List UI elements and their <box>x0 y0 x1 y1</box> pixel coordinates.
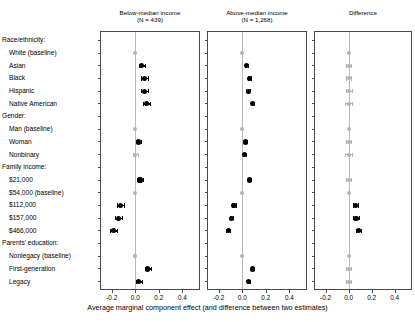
y-tick <box>98 103 101 104</box>
y-tick <box>98 141 101 142</box>
y-tick <box>312 154 315 155</box>
baseline-marker <box>347 127 351 131</box>
y-tick <box>312 116 315 117</box>
baseline-marker <box>347 191 351 195</box>
ci-cap <box>117 229 118 233</box>
x-tick <box>266 290 267 293</box>
panel-subtitle-text: (N = 439) <box>100 16 200 23</box>
panel-box-2 <box>314 31 412 290</box>
row-label: Native American <box>0 100 105 107</box>
x-tick <box>395 290 396 293</box>
row-label: Hispanic <box>0 87 105 94</box>
x-tick <box>372 290 373 293</box>
y-tick <box>205 230 208 231</box>
y-tick <box>312 192 315 193</box>
estimate-marker <box>250 266 255 271</box>
row-label: White (baseline) <box>0 49 105 56</box>
baseline-marker <box>347 51 351 55</box>
y-tick <box>312 129 315 130</box>
baseline-marker <box>347 178 351 182</box>
estimate-marker <box>243 139 248 144</box>
y-tick <box>312 78 315 79</box>
baseline-marker <box>347 140 351 144</box>
ci-cap <box>352 153 353 157</box>
y-tick <box>98 256 101 257</box>
ci-cap <box>351 64 352 68</box>
y-tick <box>312 40 315 41</box>
ci-cap <box>352 89 353 93</box>
y-tick <box>98 53 101 54</box>
ci-cap <box>145 64 146 68</box>
baseline-marker <box>347 89 351 93</box>
ci-cap <box>345 102 346 106</box>
y-tick <box>205 141 208 142</box>
y-tick <box>205 129 208 130</box>
y-tick <box>312 91 315 92</box>
y-tick <box>312 180 315 181</box>
estimate-marker <box>246 89 251 94</box>
row-label: First-generation <box>0 265 105 272</box>
y-tick <box>205 65 208 66</box>
y-tick <box>312 103 315 104</box>
y-tick <box>205 154 208 155</box>
y-tick <box>205 205 208 206</box>
y-tick <box>98 192 101 193</box>
zero-reference-line <box>349 32 350 289</box>
y-tick <box>98 129 101 130</box>
ci-cap <box>351 178 352 182</box>
ci-cap <box>124 203 125 207</box>
y-tick <box>98 40 101 41</box>
row-label: Black <box>0 74 105 81</box>
row-label: $21,000 <box>0 176 105 183</box>
y-tick <box>98 230 101 231</box>
estimate-marker <box>353 216 358 221</box>
panel-title-0: Below-median income(N = 439) <box>100 9 200 23</box>
y-tick <box>205 180 208 181</box>
y-tick <box>205 192 208 193</box>
ci-cap <box>351 76 352 80</box>
y-tick <box>205 243 208 244</box>
estimate-marker <box>142 89 147 94</box>
y-tick <box>98 78 101 79</box>
estimate-marker <box>247 76 252 81</box>
estimate-marker <box>145 266 150 271</box>
x-tick <box>159 290 160 293</box>
y-tick <box>312 141 315 142</box>
ci-cap <box>138 153 139 157</box>
ci-cap <box>359 216 360 220</box>
y-tick <box>98 205 101 206</box>
y-tick <box>205 281 208 282</box>
x-tick-label: 0.4 <box>381 294 409 301</box>
x-tick <box>135 290 136 293</box>
x-tick <box>112 290 113 293</box>
y-tick <box>312 243 315 244</box>
ci-cap <box>151 267 152 271</box>
ci-cap <box>352 102 353 106</box>
y-tick <box>98 281 101 282</box>
y-tick <box>312 218 315 219</box>
baseline-marker <box>347 102 351 106</box>
panel-title-text: Difference <box>314 9 412 16</box>
panel-title-1: Above-median income(N = 1,268) <box>207 9 307 23</box>
y-tick <box>312 167 315 168</box>
baseline-marker <box>133 153 137 157</box>
ci-cap <box>345 153 346 157</box>
ci-cap <box>351 140 352 144</box>
y-tick <box>98 218 101 219</box>
row-label: Nonlegacy (baseline) <box>0 252 105 259</box>
y-tick <box>98 116 101 117</box>
y-tick <box>98 154 101 155</box>
estimate-marker <box>353 203 358 208</box>
y-tick <box>205 116 208 117</box>
estimate-marker <box>246 279 251 284</box>
x-tick <box>219 290 220 293</box>
ci-cap <box>148 89 149 93</box>
y-tick <box>312 256 315 257</box>
y-tick <box>205 40 208 41</box>
estimate-marker <box>136 139 141 144</box>
y-tick <box>98 180 101 181</box>
panel-title-text: Below-median income <box>100 9 200 16</box>
x-tick <box>326 290 327 293</box>
estimate-marker <box>247 177 252 182</box>
y-tick <box>312 205 315 206</box>
